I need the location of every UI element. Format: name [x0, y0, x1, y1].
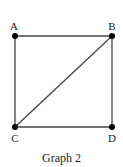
node-label-b: B: [108, 20, 115, 32]
node-c: [12, 124, 18, 130]
graph-caption: Graph 2: [42, 151, 81, 165]
node-label-a: A: [10, 20, 18, 32]
node-a: [12, 33, 18, 39]
node-b: [109, 33, 115, 39]
edges: [15, 36, 112, 127]
node-d: [109, 124, 115, 130]
graph-diagram: ABCD Graph 2: [0, 0, 123, 167]
node-label-d: D: [108, 132, 116, 144]
node-label-c: C: [11, 132, 18, 144]
edge-b-c: [15, 36, 112, 127]
